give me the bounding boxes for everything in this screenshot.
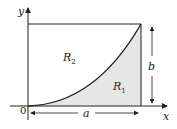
region-diagram: y x 0 a b R2 R1 bbox=[0, 0, 177, 129]
width-label: a bbox=[83, 107, 90, 120]
origin-label: 0 bbox=[20, 105, 26, 116]
height-label: b bbox=[148, 60, 155, 73]
region-r2-label: R2 bbox=[62, 51, 76, 66]
y-axis-label: y bbox=[17, 5, 25, 18]
x-axis-label: x bbox=[163, 110, 170, 123]
